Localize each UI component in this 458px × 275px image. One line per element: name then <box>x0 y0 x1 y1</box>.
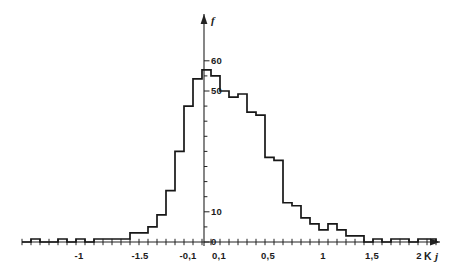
x-tick-label-3: 0,1 <box>212 250 226 261</box>
x-tick-label-5: 1 <box>320 250 326 261</box>
x-axis-title: K <box>424 250 432 262</box>
histogram-outline <box>22 70 436 242</box>
x-tick-label-4: 0,5 <box>261 250 275 261</box>
figure-canvas: -1-1.5-0,10,10,511,52 0105060 f K j <box>0 0 458 275</box>
x-tick-label-1: -1.5 <box>131 250 149 261</box>
x-tick-label-6: 1,5 <box>365 250 379 261</box>
x-axis-title-subscript: j <box>433 250 439 262</box>
y-axis-ticks <box>204 61 210 242</box>
y-tick-label-3: 60 <box>211 55 222 66</box>
x-axis-tick-labels: -1-1.5-0,10,10,511,52 <box>75 250 422 261</box>
y-axis-title: f <box>211 14 216 26</box>
y-tick-label-1: 10 <box>211 206 222 217</box>
y-axis-arrowhead <box>201 14 208 24</box>
histogram-plot: -1-1.5-0,10,10,511,52 0105060 f K j <box>0 0 458 275</box>
x-tick-label-7: 2 <box>416 250 421 261</box>
x-tick-label-0: -1 <box>75 250 84 261</box>
x-tick-label-2: -0,1 <box>179 250 197 261</box>
y-axis <box>201 14 208 246</box>
y-tick-label-0: 0 <box>211 236 216 247</box>
